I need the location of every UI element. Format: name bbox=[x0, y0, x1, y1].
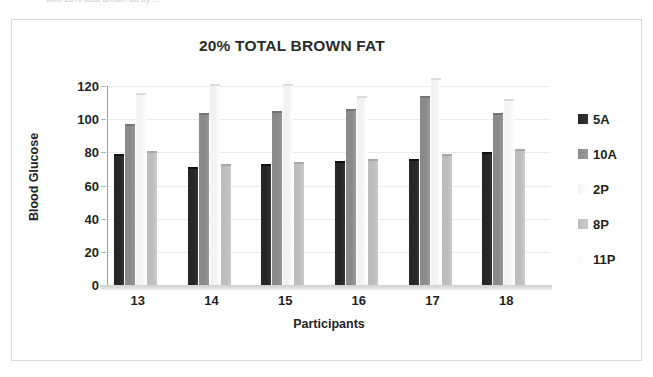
bar-8P-14[interactable] bbox=[221, 164, 231, 285]
bar-8P-16[interactable] bbox=[368, 159, 378, 285]
page-caption-strip: with 20% total brown fat by ... bbox=[0, 0, 653, 16]
y-tick-label-80: 80 bbox=[85, 145, 99, 160]
bar-cap bbox=[368, 159, 378, 161]
bar-5A-13[interactable] bbox=[114, 154, 124, 285]
bar-cap bbox=[335, 161, 345, 163]
bar-8P-15[interactable] bbox=[294, 162, 304, 285]
bars bbox=[108, 86, 182, 285]
bar-cap bbox=[357, 96, 367, 98]
bar-group-13: 13 bbox=[108, 86, 182, 285]
chart-title: 20% TOTAL BROWN FAT bbox=[12, 37, 572, 55]
bar-group-18: 18 bbox=[476, 86, 550, 285]
bar-2P-14[interactable] bbox=[210, 84, 220, 285]
bar-5A-18[interactable] bbox=[482, 152, 492, 285]
bar-cap bbox=[261, 164, 271, 166]
legend-item-8P[interactable]: 8P bbox=[578, 217, 640, 231]
bar-8P-13[interactable] bbox=[147, 151, 157, 285]
x-tick-label-18: 18 bbox=[476, 293, 550, 308]
bar-group-16: 16 bbox=[329, 86, 403, 285]
plot-floor bbox=[100, 285, 552, 290]
chart-legend: 5A10A2P8P11P bbox=[578, 112, 640, 287]
bar-10A-18[interactable] bbox=[493, 113, 503, 285]
legend-item-2P[interactable]: 2P bbox=[578, 182, 640, 196]
bar-cap bbox=[188, 167, 198, 169]
y-tick-mark-100 bbox=[101, 119, 106, 120]
bar-5A-17[interactable] bbox=[409, 159, 419, 285]
bars bbox=[255, 86, 329, 285]
bar-2P-13[interactable] bbox=[136, 93, 146, 285]
x-tick-label-13: 13 bbox=[108, 293, 182, 308]
bar-8P-18[interactable] bbox=[515, 149, 525, 285]
bar-cap bbox=[210, 84, 220, 86]
bar-cap bbox=[409, 159, 419, 161]
bar-5A-14[interactable] bbox=[188, 167, 198, 285]
x-tick-label-15: 15 bbox=[255, 293, 329, 308]
bars bbox=[476, 86, 550, 285]
y-tick-mark-80 bbox=[101, 152, 106, 153]
x-tick-label-17: 17 bbox=[403, 293, 477, 308]
y-tick-label-0: 0 bbox=[92, 278, 99, 293]
y-tick-label-20: 20 bbox=[85, 244, 99, 259]
bar-10A-14[interactable] bbox=[199, 113, 209, 285]
legend-item-11P[interactable]: 11P bbox=[578, 252, 640, 266]
bar-5A-15[interactable] bbox=[261, 164, 271, 285]
y-tick-mark-120 bbox=[101, 86, 106, 87]
bars bbox=[329, 86, 403, 285]
bar-2P-18[interactable] bbox=[504, 99, 514, 285]
bar-cap bbox=[493, 113, 503, 115]
bar-cap bbox=[221, 164, 231, 166]
bar-cap bbox=[283, 84, 293, 86]
chart-frame: 20% TOTAL BROWN FAT Blood Glucose 020406… bbox=[11, 19, 642, 361]
bar-10A-17[interactable] bbox=[420, 96, 430, 285]
bar-10A-13[interactable] bbox=[125, 124, 135, 285]
bar-cap bbox=[272, 111, 282, 113]
legend-swatch-2P bbox=[578, 184, 588, 194]
bar-groups: 131415161718 bbox=[108, 86, 550, 285]
x-tick-label-16: 16 bbox=[329, 293, 403, 308]
bar-cap bbox=[346, 109, 356, 111]
bar-cap bbox=[136, 93, 146, 95]
y-axis-title: Blood Glucose bbox=[27, 117, 41, 237]
x-axis-title: Participants bbox=[108, 317, 550, 331]
bar-8P-17[interactable] bbox=[442, 154, 452, 285]
bar-cap bbox=[125, 124, 135, 126]
bar-2P-15[interactable] bbox=[283, 84, 293, 285]
y-tick-mark-20 bbox=[101, 252, 106, 253]
bar-cap bbox=[420, 96, 430, 98]
bar-cap bbox=[504, 99, 514, 101]
bar-cap bbox=[515, 149, 525, 151]
bar-10A-15[interactable] bbox=[272, 111, 282, 285]
y-tick-mark-40 bbox=[101, 219, 106, 220]
y-tick-label-40: 40 bbox=[85, 211, 99, 226]
bar-group-14: 14 bbox=[182, 86, 256, 285]
legend-label-10A: 10A bbox=[593, 147, 617, 162]
legend-label-8P: 8P bbox=[593, 217, 609, 232]
bar-cap bbox=[147, 151, 157, 153]
legend-label-5A: 5A bbox=[593, 112, 610, 127]
legend-swatch-8P bbox=[578, 219, 588, 229]
legend-item-5A[interactable]: 5A bbox=[578, 112, 640, 126]
bar-cap bbox=[294, 162, 304, 164]
bar-2P-17[interactable] bbox=[431, 78, 441, 285]
bar-group-15: 15 bbox=[255, 86, 329, 285]
bars bbox=[403, 86, 477, 285]
legend-item-10A[interactable]: 10A bbox=[578, 147, 640, 161]
bar-cap bbox=[431, 78, 441, 80]
legend-label-2P: 2P bbox=[593, 182, 609, 197]
y-tick-label-60: 60 bbox=[85, 178, 99, 193]
bar-5A-16[interactable] bbox=[335, 161, 345, 285]
bar-cap bbox=[114, 154, 124, 156]
bar-cap bbox=[199, 113, 209, 115]
bars bbox=[182, 86, 256, 285]
bar-cap bbox=[442, 154, 452, 156]
x-tick-label-14: 14 bbox=[182, 293, 256, 308]
y-tick-label-100: 100 bbox=[77, 112, 99, 127]
legend-swatch-11P bbox=[578, 254, 588, 264]
legend-swatch-10A bbox=[578, 149, 588, 159]
bar-2P-16[interactable] bbox=[357, 96, 367, 285]
bar-cap bbox=[482, 152, 492, 154]
bar-10A-16[interactable] bbox=[346, 109, 356, 285]
bar-group-17: 17 bbox=[403, 86, 477, 285]
legend-swatch-5A bbox=[578, 114, 588, 124]
legend-label-11P: 11P bbox=[593, 252, 615, 267]
